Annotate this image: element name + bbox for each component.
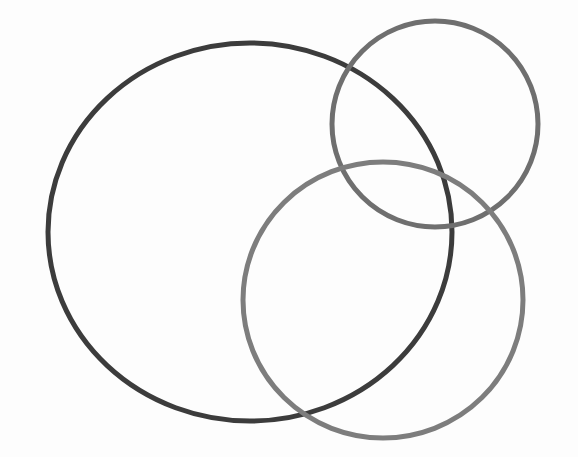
figure-canvas <box>0 0 578 457</box>
overlapping-circles-figure <box>0 0 578 457</box>
